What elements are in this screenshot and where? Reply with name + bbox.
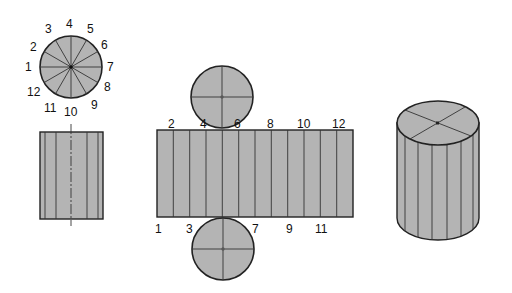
dev-label-11: 11 (315, 222, 328, 236)
dev-label-8: 8 (267, 117, 274, 131)
top-label-12: 12 (27, 85, 41, 99)
top-label-1: 1 (25, 60, 32, 74)
top-label-9: 9 (91, 98, 98, 112)
dev-label-3: 3 (186, 222, 193, 236)
top-label-4: 4 (66, 17, 73, 31)
cylinder-development-diagram: 1 2 3 4 5 6 7 8 9 10 11 12 (0, 0, 512, 293)
dev-label-12: 12 (332, 117, 346, 131)
dev-label-10: 10 (297, 117, 311, 131)
top-label-6: 6 (101, 38, 108, 52)
dev-label-7: 7 (252, 222, 259, 236)
top-label-5: 5 (87, 22, 94, 36)
development-rectangle (157, 130, 353, 217)
dev-label-6: 6 (234, 117, 241, 131)
top-view-circle (40, 36, 102, 98)
dev-label-9: 9 (286, 222, 293, 236)
top-label-11: 11 (44, 101, 57, 115)
top-label-2: 2 (30, 40, 37, 54)
dev-label-2: 2 (168, 117, 175, 131)
development-bottom-circle (192, 218, 254, 280)
top-label-3: 3 (45, 22, 52, 36)
top-label-8: 8 (104, 80, 111, 94)
dev-label-4: 4 (200, 117, 207, 131)
front-view-rectangle (40, 124, 103, 226)
top-label-10: 10 (64, 105, 78, 119)
development-top-labels: 2 4 6 8 10 12 (168, 117, 346, 131)
dev-label-1: 1 (155, 222, 162, 236)
pictorial-cylinder (397, 101, 479, 240)
top-label-7: 7 (107, 60, 114, 74)
